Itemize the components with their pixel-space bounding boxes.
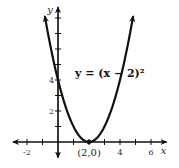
axes (13, 7, 166, 157)
y-tick-label: 4 (49, 76, 54, 85)
x-tick-label: 4 (117, 148, 122, 157)
vertex-point (87, 140, 92, 145)
ticks (27, 18, 151, 145)
x-tick-label: -2 (23, 148, 31, 157)
parabola-chart: -24624xy y = (x − 2)²(2,0) (0, 0, 179, 168)
y-axis-label: y (46, 4, 53, 15)
vertex-label: (2,0) (77, 147, 101, 158)
x-tick-label: 6 (148, 148, 153, 157)
x-axis-label: x (161, 145, 167, 156)
y-tick-label: 2 (49, 107, 54, 116)
tick-labels: -24624xy (23, 4, 167, 157)
equation-label: y = (x − 2)² (74, 67, 145, 80)
